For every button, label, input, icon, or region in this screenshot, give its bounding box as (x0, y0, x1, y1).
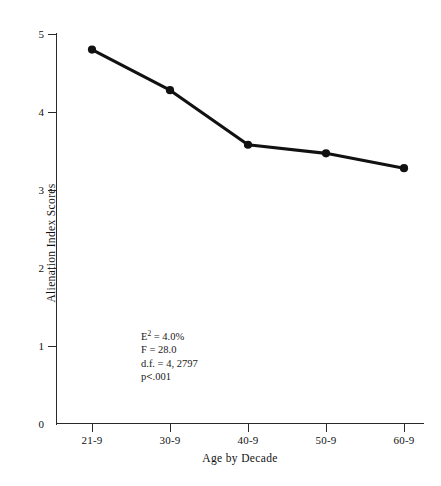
y-tick-label-2: 2 (24, 262, 44, 274)
stat-line-p: p<.001 (141, 370, 198, 383)
y-tick-3 (48, 190, 57, 191)
y-tick-2 (48, 268, 57, 269)
y-axis-title-text: Alienation Index Scores (34, 0, 68, 486)
y-tick-label-3: 3 (24, 184, 44, 196)
x-tick-21-9 (92, 424, 93, 432)
series-line (92, 50, 404, 169)
series-markers (88, 46, 408, 173)
y-tick-5 (48, 34, 57, 35)
data-point-30-9 (166, 86, 174, 94)
x-tick-30-9 (170, 424, 171, 432)
y-tick-label-1: 1 (24, 340, 44, 352)
y-tick-1 (48, 346, 57, 347)
data-point-50-9 (322, 149, 330, 157)
y-axis-title: Alienation Index Scores (34, 0, 68, 486)
x-axis-title: Age by Decade (57, 452, 423, 464)
x-tick-label-30-9: 30-9 (140, 434, 200, 446)
y-tick-4 (48, 112, 57, 113)
x-axis-line (56, 423, 424, 424)
data-point-40-9 (244, 141, 252, 149)
y-tick-label-4: 4 (24, 106, 44, 118)
stats-annotation: E2 = 4.0% F = 28.0 d.f. = 4, 2797 p<.001 (141, 330, 198, 384)
y-tick-label-5: 5 (24, 28, 44, 40)
stat-line-f: F = 28.0 (141, 343, 198, 356)
x-tick-40-9 (248, 424, 249, 432)
stat-line-e-squared: E2 = 4.0% (141, 330, 198, 343)
data-point-60-9 (400, 164, 408, 172)
e-squared-value: = 4.0% (151, 331, 184, 342)
p-value: .001 (153, 371, 171, 382)
x-tick-label-60-9: 60-9 (374, 434, 434, 446)
x-tick-label-21-9: 21-9 (62, 434, 122, 446)
y-axis-line (56, 33, 57, 425)
x-tick-60-9 (404, 424, 405, 432)
figure-alienation-by-age: Alienation Index Scores Age by Decade 5 … (0, 0, 441, 486)
y-tick-label-0: 0 (24, 418, 44, 430)
x-tick-label-50-9: 50-9 (296, 434, 356, 446)
x-tick-label-40-9: 40-9 (218, 434, 278, 446)
x-tick-50-9 (326, 424, 327, 432)
data-point-21-9 (88, 46, 96, 54)
stat-line-df: d.f. = 4, 2797 (141, 357, 198, 370)
